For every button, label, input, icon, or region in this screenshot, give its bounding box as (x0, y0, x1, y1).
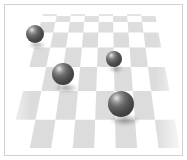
shadow-bottom-right (111, 115, 139, 125)
floor-tile (78, 67, 97, 91)
shadow-mid-left (55, 84, 77, 92)
raytraced-render-canvas (5, 5, 182, 155)
shadow-mid-right (109, 66, 123, 72)
shadow-top-left (29, 42, 45, 48)
floor-tile (130, 48, 148, 67)
sphere-mid-right (106, 51, 122, 67)
sphere-top-left (26, 25, 44, 43)
scene-frame: Checkerboard Plane with Spheres (0, 0, 187, 160)
sphere-mid-left (52, 63, 74, 85)
floor-tile (133, 91, 155, 120)
sphere-bottom-right (108, 91, 134, 117)
